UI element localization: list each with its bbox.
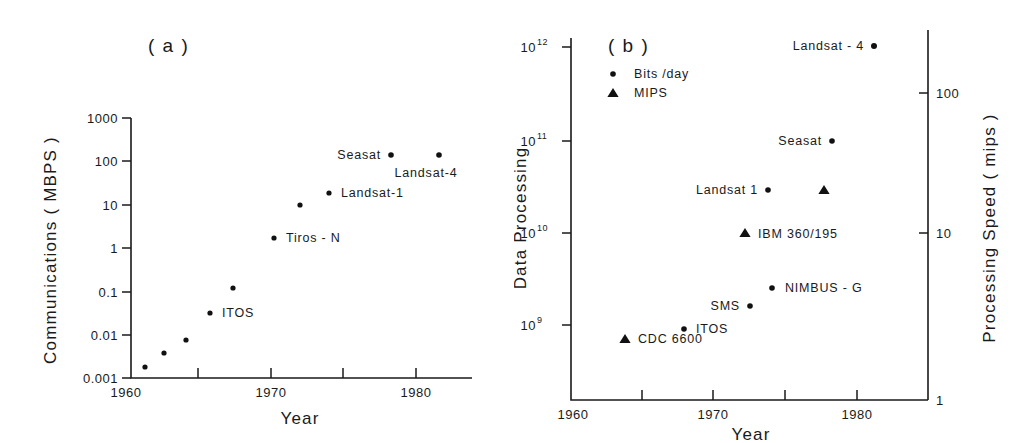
panel-b-xtick-1980: 1980 — [842, 407, 873, 422]
panel-a-x-ticks — [198, 368, 416, 378]
panel-b: ( b ) 10 12 10 11 10 10 — [514, 0, 1028, 443]
data-point-itos — [681, 326, 687, 332]
panel-a-x-axis-title: Year — [280, 409, 319, 428]
panel-b-y-axis-title-right: Processing Speed ( mips ) — [980, 113, 999, 342]
annotation-landsat-1: Landsat 1 — [696, 183, 758, 197]
panel-b-right-y-ticks — [919, 93, 928, 233]
panel-a: ( a ) 1000 100 10 1 0.1 0.01 0.001 — [0, 0, 514, 443]
panel-a-label: ( a ) — [148, 35, 189, 56]
panel-b-axes-left-bottom — [571, 38, 928, 400]
data-point-landsat-4 — [871, 43, 877, 49]
annotation-landsat-1: Landsat-1 — [341, 186, 404, 200]
svg-text:10: 10 — [537, 223, 548, 233]
figure-container: ( a ) 1000 100 10 1 0.1 0.01 0.001 — [0, 0, 1028, 443]
annotation-landsat-4: Landsat - 4 — [793, 39, 864, 53]
panel-b-legend: Bits /day MIPS — [607, 67, 689, 100]
data-point-nimbus-g — [769, 285, 775, 291]
panel-b-label: ( b ) — [608, 35, 649, 56]
annotation-landsat-4: Landsat-4 — [395, 166, 458, 180]
annotation-tiros-n: Tiros - N — [286, 231, 341, 245]
panel-b-y-axis-title: Data Processing — [514, 147, 530, 290]
panel-b-xtick-1970: 1970 — [698, 407, 729, 422]
legend-label-bits-per-day: Bits /day — [634, 67, 689, 81]
panel-a-axes — [131, 118, 472, 378]
panel-b-ytick-1e9: 10 9 — [521, 315, 543, 333]
panel-a-ytick-0-01: 0.01 — [91, 328, 118, 343]
data-point — [183, 337, 188, 342]
panel-a-ytick-0-001: 0.001 — [83, 371, 118, 386]
annotation-sms: SMS — [711, 299, 741, 313]
panel-a-ytick-10: 10 — [103, 198, 118, 213]
svg-text:11: 11 — [537, 131, 547, 141]
data-point-mips-unlabeled — [818, 185, 829, 194]
data-point-ibm-360-195 — [739, 228, 750, 237]
panel-b-left-y-ticks — [562, 47, 571, 325]
data-point-itos — [207, 310, 212, 315]
panel-b-svg: ( b ) 10 12 10 11 10 10 — [514, 0, 1028, 443]
panel-b-xtick-1960: 1960 — [558, 407, 589, 422]
data-point — [142, 364, 147, 369]
annotation-seasat: Seasat — [337, 148, 381, 162]
svg-text:9: 9 — [537, 315, 543, 325]
panel-b-x-ticks — [642, 390, 857, 400]
panel-a-svg: ( a ) 1000 100 10 1 0.1 0.01 0.001 — [0, 0, 514, 443]
panel-a-xtick-1960: 1960 — [111, 385, 142, 400]
legend-label-mips: MIPS — [634, 86, 668, 100]
annotation-itos: ITOS — [222, 306, 254, 320]
panel-b-rtick-1: 1 — [936, 393, 944, 408]
panel-a-y-ticks — [122, 118, 131, 378]
panel-b-data-points-mips — [619, 185, 829, 343]
panel-a-y-axis-title: Communications ( MBPS ) — [41, 136, 60, 364]
panel-a-xtick-1970: 1970 — [256, 385, 287, 400]
data-point-landsat-4 — [436, 152, 442, 158]
panel-b-ytick-1e12: 10 12 — [521, 37, 548, 55]
annotation-ibm-360-195: IBM 360/195 — [758, 227, 838, 241]
panel-a-ytick-1: 1 — [110, 241, 118, 256]
svg-text:10: 10 — [521, 40, 536, 55]
svg-text:12: 12 — [537, 37, 548, 47]
annotation-nimbus-g: NIMBUS - G — [785, 281, 862, 295]
panel-b-rtick-100: 100 — [936, 86, 959, 101]
data-point-tiros-n — [271, 235, 276, 240]
data-point-landsat-1 — [326, 190, 331, 195]
panel-b-ytick-1e11: 10 11 — [521, 131, 548, 149]
panel-b-x-axis-title: Year — [731, 425, 770, 443]
data-point-seasat — [829, 138, 835, 144]
triangle-marker — [607, 88, 618, 97]
panel-a-xtick-1980: 1980 — [401, 385, 432, 400]
data-point-landsat-1 — [765, 187, 771, 193]
svg-text:10: 10 — [521, 318, 536, 333]
data-point — [230, 285, 235, 290]
data-point-seasat — [388, 152, 394, 158]
panel-a-ytick-100: 100 — [95, 154, 118, 169]
data-point — [161, 350, 166, 355]
panel-a-data-points — [142, 152, 441, 369]
data-point — [297, 202, 302, 207]
data-point-sms — [747, 303, 753, 309]
panel-a-ytick-0-1: 0.1 — [98, 285, 118, 300]
panel-b-rtick-10: 10 — [936, 226, 951, 241]
panel-a-ytick-1000: 1000 — [87, 111, 118, 126]
annotation-seasat: Seasat — [778, 134, 822, 148]
data-point-cdc-6600 — [619, 334, 630, 343]
annotation-cdc-6600: CDC 6600 — [638, 332, 703, 346]
dot-marker — [610, 71, 616, 77]
